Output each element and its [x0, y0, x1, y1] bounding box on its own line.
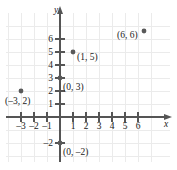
- x-tick-label: 4: [110, 121, 115, 131]
- grid-lines: [6, 13, 170, 162]
- y-tick-label: 1: [48, 99, 53, 109]
- data-point-label: (–3, 2): [5, 96, 30, 107]
- x-axis-label: x: [163, 119, 169, 129]
- data-point-marker: [71, 50, 76, 55]
- x-tick-label: –1: [41, 121, 52, 131]
- y-tick-label: 5: [48, 47, 53, 57]
- y-tick-label: 4: [48, 60, 53, 70]
- x-tick-label: 3: [97, 121, 102, 131]
- data-point-label: (1, 5): [77, 52, 98, 63]
- data-point-labels: (1, 5) (6, 6) (0, 3) (–3, 2) (0, –2): [5, 30, 138, 158]
- data-point-marker: [58, 141, 63, 146]
- y-tick-label: –2: [43, 138, 54, 148]
- y-tick-label: 2: [48, 86, 53, 96]
- coordinate-plane-figure: –3 –2 –1 1 2 3 4 5 6 6 5 4 3 2 1 –2: [0, 0, 177, 170]
- data-point-marker: [58, 76, 63, 81]
- data-point-marker: [19, 89, 24, 94]
- y-axis-label: y: [53, 5, 59, 15]
- data-point-marker: [142, 29, 147, 34]
- scatter-plot-svg: –3 –2 –1 1 2 3 4 5 6 6 5 4 3 2 1 –2: [0, 0, 177, 170]
- axis-names: y x: [53, 5, 169, 129]
- data-point-label: (0, –2): [63, 147, 88, 158]
- data-point-label: (6, 6): [117, 30, 138, 41]
- x-tick-label: 2: [84, 121, 89, 131]
- x-tick-label: 1: [71, 121, 76, 131]
- y-tick-label: 6: [48, 34, 53, 44]
- x-tick-label: 5: [123, 121, 128, 131]
- y-tick-label: 3: [48, 73, 53, 83]
- x-axis: [6, 114, 172, 120]
- x-tick-label: 6: [136, 121, 141, 131]
- data-point-label: (0, 3): [63, 82, 84, 93]
- x-tick-label: –3: [15, 121, 26, 131]
- x-tick-label: –2: [28, 121, 39, 131]
